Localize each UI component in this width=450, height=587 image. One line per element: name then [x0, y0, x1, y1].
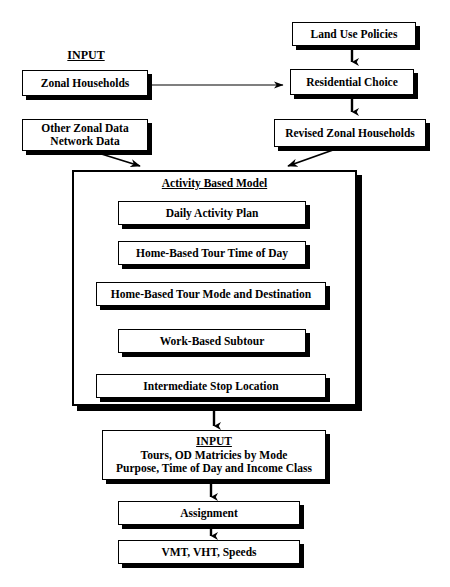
node-intermediate-stop-location[interactable]: Intermediate Stop Location — [96, 374, 326, 398]
node-assignment[interactable]: Assignment — [118, 501, 300, 525]
node-label: Home-Based Tour Time of Day — [136, 247, 288, 260]
node-label: Work-Based Subtour — [160, 335, 264, 348]
node-daily-activity-plan[interactable]: Daily Activity Plan — [118, 201, 306, 225]
group-title-activity-based-model: Activity Based Model — [72, 177, 357, 189]
node-other-zonal-data[interactable]: Other Zonal Data Network Data — [22, 119, 148, 151]
node-home-based-tour-time-of-day[interactable]: Home-Based Tour Time of Day — [118, 241, 306, 265]
node-label: Residential Choice — [306, 76, 398, 89]
edge-otherzonal-to-abm — [95, 152, 140, 166]
node-work-based-subtour[interactable]: Work-Based Subtour — [118, 329, 306, 353]
node-label: Zonal Households — [41, 77, 130, 90]
node-input-matrices[interactable]: INPUT Tours, OD Matricies by Mode Purpos… — [102, 430, 326, 480]
edge-revised-to-abm — [288, 150, 333, 166]
node-label: Daily Activity Plan — [166, 207, 259, 220]
node-label: VMT, VHT, Speeds — [161, 546, 256, 559]
node-label-line1: Tours, OD Matricies by Mode — [141, 449, 288, 462]
node-label-line2: Network Data — [50, 135, 119, 148]
node-residential-choice[interactable]: Residential Choice — [290, 69, 414, 95]
node-label-line2: Purpose, Time of Day and Income Class — [116, 462, 312, 475]
node-label-line1: Other Zonal Data — [41, 122, 128, 135]
flowchart-canvas: INPUT Land Use Policies Zonal Households… — [0, 0, 450, 587]
node-home-based-tour-mode-and-destination[interactable]: Home-Based Tour Mode and Destination — [96, 282, 326, 306]
node-revised-zonal-households[interactable]: Revised Zonal Households — [274, 119, 426, 147]
node-vmt-vht-speeds[interactable]: VMT, VHT, Speeds — [118, 540, 300, 564]
input-label-top: INPUT — [56, 48, 116, 63]
node-zonal-households[interactable]: Zonal Households — [22, 70, 148, 96]
node-land-use-policies[interactable]: Land Use Policies — [292, 22, 416, 46]
node-label: Home-Based Tour Mode and Destination — [111, 288, 311, 301]
node-label: Assignment — [180, 507, 238, 520]
node-label: Intermediate Stop Location — [143, 380, 278, 393]
node-label-header: INPUT — [196, 435, 232, 448]
node-label: Revised Zonal Households — [285, 127, 415, 140]
node-label: Land Use Policies — [311, 28, 398, 41]
